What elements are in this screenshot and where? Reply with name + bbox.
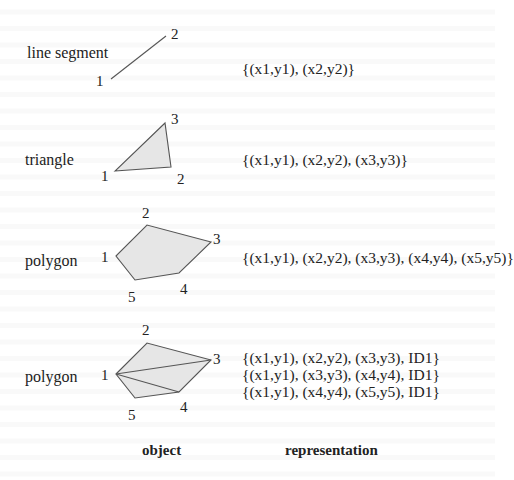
representation-triangle: {(x1,y1), (x2,y2), (x3,y3)} — [242, 152, 408, 169]
representation-triangle-1: {(x1,y1), (x2,y2), (x3,y3), ID1} — [242, 350, 440, 367]
vertex-label-3: 3 — [213, 352, 221, 367]
vertex-label-2: 2 — [142, 206, 150, 221]
object-label-triangulated-polygon: polygon — [25, 368, 77, 386]
object-label-line-segment: line segment — [27, 44, 108, 62]
vertex-label-3: 3 — [213, 232, 221, 247]
polygon-shape — [116, 225, 211, 280]
vertex-label-3: 3 — [171, 112, 179, 127]
vertex-label-1: 1 — [101, 250, 109, 265]
representation-triangle-3: {(x1,y1), (x4,y4), (x5,y5), ID1} — [242, 384, 440, 401]
triangle-shape — [115, 123, 171, 171]
column-header-representation: representation — [285, 442, 378, 459]
vertex-label-1: 1 — [101, 368, 109, 383]
triangulated-polygon-shape — [116, 343, 211, 398]
representation-triangle-2: {(x1,y1), (x3,y3), (x4,y4), ID1} — [242, 367, 440, 384]
vertex-label-4: 4 — [180, 282, 188, 297]
vertex-label-5: 5 — [128, 408, 136, 423]
object-label-triangle: triangle — [25, 151, 74, 169]
vertex-label-5: 5 — [128, 290, 136, 305]
representation-polygon: {(x1,y1), (x2,y2), (x3,y3), (x4,y4), (x5… — [242, 250, 514, 267]
vertex-label-1: 1 — [101, 169, 109, 184]
vertex-label-2: 2 — [142, 323, 150, 338]
column-header-object: object — [142, 442, 181, 459]
vertex-label-4: 4 — [180, 400, 188, 415]
line-segment-shape — [111, 36, 166, 79]
vertex-label-1: 1 — [96, 74, 104, 89]
representation-line-segment: {(x1,y1), (x2,y2)} — [242, 61, 355, 78]
vertex-label-2: 2 — [177, 172, 185, 187]
object-label-polygon: polygon — [25, 252, 77, 270]
vertex-label-2: 2 — [171, 27, 179, 42]
